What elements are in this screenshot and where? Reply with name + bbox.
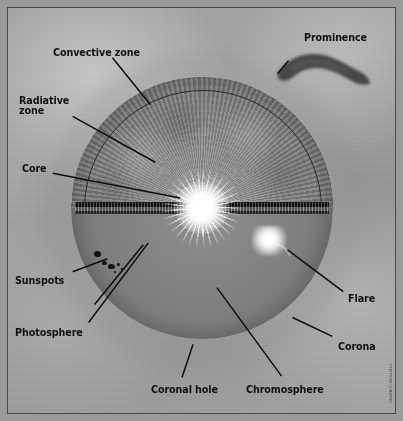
label-prominence: Prominence <box>304 33 367 43</box>
leader-sunspots <box>73 259 108 272</box>
leader-photosphere-2 <box>95 245 144 305</box>
leader-flare <box>288 250 344 292</box>
leader-line-layer <box>8 8 395 413</box>
label-photosphere: Photosphere <box>15 328 83 338</box>
label-radiative-zone: Radiative zone <box>19 96 69 116</box>
leader-prominence <box>278 61 289 74</box>
label-sunspots: Sunspots <box>15 276 64 286</box>
leader-chromosphere <box>217 288 282 377</box>
leader-corona <box>293 317 333 336</box>
figure-root: Convective zoneRadiative zoneCoreSunspot… <box>0 0 403 421</box>
label-core: Core <box>22 164 46 174</box>
leader-core <box>53 173 180 198</box>
leader-coronal-hole <box>182 344 193 377</box>
figure-frame: Convective zoneRadiative zoneCoreSunspot… <box>7 7 396 414</box>
label-coronal-hole: Coronal hole <box>151 385 218 395</box>
label-flare: Flare <box>348 294 375 304</box>
leader-radiative-zone <box>73 116 156 162</box>
label-chromosphere: Chromosphere <box>246 385 324 395</box>
label-corona: Corona <box>338 342 376 352</box>
leader-photosphere <box>89 243 149 323</box>
credit-text: GRAPHIC: NASA/ESA <box>389 363 393 403</box>
leader-convective-zone <box>112 58 150 105</box>
label-convective-zone: Convective zone <box>53 48 140 58</box>
